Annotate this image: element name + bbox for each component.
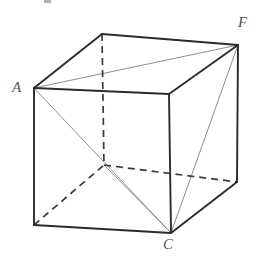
edge-top-back-icon [102,34,238,45]
cube-figure: A F C [0,0,256,261]
vertex-label-c: C [163,237,173,252]
edge-front-bottom-icon [34,225,171,233]
diagonal-f-to-c-icon [171,45,238,233]
hidden-edge-back-left-vertical-icon [102,34,104,165]
vertex-label-f: F [238,15,247,30]
cube-diagram-svg [0,0,256,261]
diagonal-c-to-back-bottom-left-icon [104,165,171,233]
cube-visible-edges [34,34,238,233]
edge-front-right-icon [169,94,171,233]
vertex-label-a: A [12,80,21,95]
hidden-edge-bottom-left-back-icon [34,165,104,225]
edge-front-top-icon [34,88,169,94]
edge-right-back-vertical-icon [237,45,238,182]
edge-top-left-back-icon [34,34,102,88]
edge-bottom-right-back-icon [171,182,237,233]
